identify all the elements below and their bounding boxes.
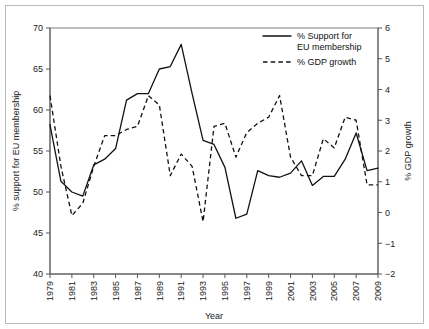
figure-root: 40455055606570% support for EU membershi… — [0, 0, 429, 329]
y-axis-left: 40455055606570% support for EU membershi… — [11, 23, 50, 279]
y-axis-right-tick-label: −2 — [385, 269, 395, 279]
y-axis-left-tick-label: 70 — [33, 23, 43, 33]
x-axis-tick-label: 1987 — [133, 281, 143, 301]
y-axis-left-tick-label: 65 — [33, 64, 43, 74]
y-axis-right-tick-label: 5 — [385, 54, 390, 64]
y-axis-left-tick-label: 45 — [33, 228, 43, 238]
y-axis-right-tick-label: 3 — [385, 116, 390, 126]
legend-label-support-line1: % Support for — [297, 31, 352, 41]
x-axis-tick-label: 1981 — [67, 281, 77, 301]
y-axis-right-title: % GDP growth — [403, 121, 413, 180]
y-axis-right-tick-label: 0 — [385, 208, 390, 218]
legend-label-gdp: % GDP growth — [297, 57, 356, 67]
x-axis-tick-label: 2003 — [308, 281, 318, 301]
x-axis-tick-label: 1989 — [155, 281, 165, 301]
x-axis-tick-label: 2005 — [329, 281, 339, 301]
y-axis-right: −2−10123456% GDP growth — [378, 23, 413, 279]
y-axis-left-tick-label: 50 — [33, 187, 43, 197]
line-chart: 40455055606570% support for EU membershi… — [0, 0, 429, 329]
y-axis-left-tick-label: 40 — [33, 269, 43, 279]
y-axis-right-tick-label: 6 — [385, 23, 390, 33]
x-axis-tick-label: 1979 — [45, 281, 55, 301]
y-axis-right-tick-label: 4 — [385, 85, 390, 95]
series-line-gdp — [50, 96, 378, 222]
x-axis-tick-label: 2007 — [351, 281, 361, 301]
legend-label-support-line2: EU membership — [297, 42, 362, 52]
x-axis-title: Year — [205, 311, 223, 321]
y-axis-left-tick-label: 60 — [33, 105, 43, 115]
y-axis-right-tick-label: −1 — [385, 239, 395, 249]
x-axis-tick-label: 1997 — [242, 281, 252, 301]
x-axis: 1979198119831985198719891991199319951997… — [45, 274, 383, 321]
x-axis-tick-label: 1999 — [264, 281, 274, 301]
x-axis-tick-label: 1993 — [198, 281, 208, 301]
x-axis-tick-label: 2009 — [373, 281, 383, 301]
x-axis-tick-label: 1995 — [220, 281, 230, 301]
x-axis-tick-label: 1985 — [111, 281, 121, 301]
x-axis-tick-label: 1983 — [89, 281, 99, 301]
legend: % Support forEU membership% GDP growth — [263, 31, 362, 67]
y-axis-right-tick-label: 1 — [385, 177, 390, 187]
y-axis-right-tick-label: 2 — [385, 146, 390, 156]
y-axis-left-tick-label: 55 — [33, 146, 43, 156]
y-axis-left-title: % support for EU membership — [11, 91, 21, 212]
x-axis-tick-label: 1991 — [176, 281, 186, 301]
x-axis-tick-label: 2001 — [286, 281, 296, 301]
